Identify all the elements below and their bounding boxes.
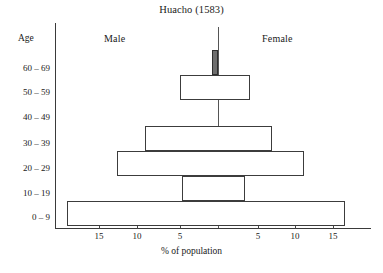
y-tick-label-0-9: 0 – 9 [4,212,50,222]
y-tick-label-30-39: 30 – 39 [4,138,50,148]
x-axis-title: % of population [0,246,383,256]
x-axis-line [55,228,371,229]
y-tick-label-10-19: 10 – 19 [4,188,50,198]
population-pyramid-chart: Huacho (1583) Male Female Age % of popul… [0,0,383,273]
y-tick-label-50-59: 50 – 59 [4,87,50,97]
legend-label-female: Female [262,33,293,44]
x-tick-label-left-5: 5 [178,231,183,241]
y-axis-title: Age [18,33,34,43]
chart-title: Huacho (1583) [0,4,383,15]
x-tick-label-left-15: 15 [95,231,104,241]
bar-age-09 [67,201,344,226]
bar-age-5059 [180,75,250,100]
x-tick-label-left-10: 10 [133,231,142,241]
legend-label-male: Male [104,33,125,44]
bar-age-3039 [145,126,272,151]
bar-age-1019 [182,176,245,201]
x-tick-label-right-15: 15 [329,231,338,241]
bar-age-2029 [117,151,304,176]
x-tick-label-right-5: 5 [256,231,261,241]
y-axis-line [55,23,56,228]
y-tick-label-20-29: 20 – 29 [4,163,50,173]
y-tick-label-40-49: 40 – 49 [4,112,50,122]
x-tick-label-right-10: 10 [291,231,300,241]
y-tick-label-60-69: 60 – 69 [4,63,50,73]
bar-age-6069 [212,50,218,75]
